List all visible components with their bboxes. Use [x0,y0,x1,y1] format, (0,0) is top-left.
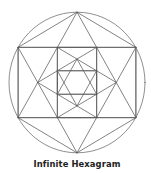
outer-hexagon-hexagon-edge [77,118,136,153]
diagram-caption: Infinite Hexagram [0,158,151,170]
hexagram-lines [18,12,136,153]
outer-circle [9,12,145,153]
outer-hexagon-hexagon-edge [18,12,77,47]
outer-hexagon-triangle-2-edge [77,47,136,152]
infinite-hexagram-diagram [0,0,151,173]
outer-hexagon-hexagon-edge [77,12,136,47]
outer-hexagon-triangle-1-edge [18,12,77,117]
outer-hexagon-triangle-2-edge [18,47,77,152]
outer-hexagon-triangle-1-edge [77,12,136,117]
outer-hexagon-hexagon-edge [18,118,77,153]
